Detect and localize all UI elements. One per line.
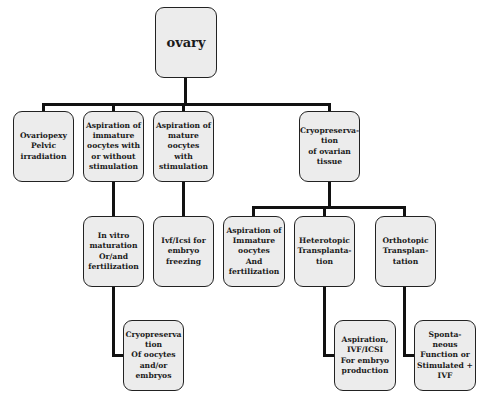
node-aspiration-ivf: Aspiration, IVF/ICSI For embryo producti… — [334, 320, 396, 391]
node-ivm: In vitro maturation Or/and fertilization — [83, 216, 144, 287]
connector-root-down — [184, 77, 187, 105]
node-aspiration-immature-fert: Aspiration of Immature oocytes And ferti… — [223, 216, 285, 287]
connector-heterotopic-down — [323, 286, 326, 357]
connector-cryo-down — [328, 181, 331, 208]
node-ivf-icsi-freezing: Ivf/Icsi for embryo freezing — [153, 216, 214, 287]
node-orthotopic: Orthotopic Transplan- tation — [375, 216, 436, 287]
node-cryo-tissue: Cryopreserva- tion of ovarian tissue — [299, 111, 360, 182]
node-heterotopic: Heterotopic Transplanta- tion — [294, 216, 355, 287]
connector-mature-to-ivf — [182, 181, 185, 217]
node-aspiration-mature: Aspiration of mature oocytes with stimul… — [153, 111, 214, 182]
node-cryo-oocytes: Cryopreserva tion Of oocytes and/or embr… — [123, 320, 184, 391]
connector-level2-bar — [252, 206, 406, 209]
node-spontaneous: Sponta- neous Function or Stimulated + I… — [414, 320, 476, 391]
node-ovariopexy: Ovariopexy Pelvic irradiation — [13, 111, 74, 182]
ovary-treatment-tree: ovary Ovariopexy Pelvic irradiation Aspi… — [0, 0, 487, 398]
node-aspiration-immature: Aspiration of immature oocytes with or w… — [83, 111, 144, 182]
connector-ivm-down — [112, 286, 115, 357]
connector-immature-to-ivm — [112, 181, 115, 217]
connector-level1-bar — [42, 103, 331, 106]
node-ovary: ovary — [155, 7, 217, 78]
connector-orthotopic-down — [403, 286, 406, 357]
